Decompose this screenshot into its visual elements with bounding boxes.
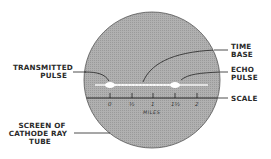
crt-screen	[84, 12, 220, 148]
label-transmitted-pulse-line2: PULSE	[40, 71, 67, 80]
scale-unit-label: MILES	[143, 110, 160, 115]
tick-label-2: 2	[195, 101, 199, 107]
label-time-base-line2: BASE	[231, 50, 253, 59]
label-echo-pulse-line2: PULSE	[231, 73, 258, 82]
tick-label-1: 1	[151, 101, 155, 107]
tick-label-one-half: 1½	[171, 101, 180, 107]
echo-pulse-blip	[170, 82, 180, 88]
tick-label-0: 0	[108, 101, 112, 107]
tick-label-half: ½	[129, 101, 135, 107]
label-screen-line3: TUBE	[29, 137, 51, 146]
diagram-canvas: 0 ½ 1 1½ 2 MILES TIME BASE ECHO PULSE SC…	[0, 0, 271, 159]
transmitted-pulse-blip	[105, 82, 115, 88]
label-scale: SCALE	[231, 94, 258, 103]
